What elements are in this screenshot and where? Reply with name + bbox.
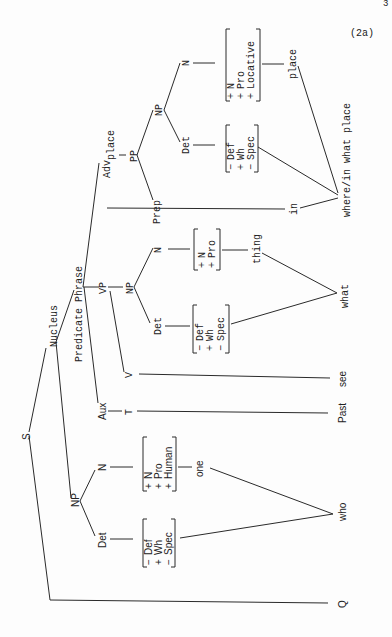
svg-text:Pro: Pro: [207, 240, 218, 258]
branch-v-see: [139, 374, 330, 378]
branch-npsubj-det: [80, 501, 95, 536]
branch-pred-aux: [84, 287, 98, 403]
branch-in-where: [300, 198, 338, 208]
svg-text:Human: Human: [163, 447, 174, 479]
node-nucleus: Nucleus: [49, 305, 60, 347]
node-n-pp: N: [181, 60, 192, 66]
page-mark: 3: [383, 0, 388, 9]
branch-thing-what: [262, 253, 337, 293]
surface-past: Past: [337, 403, 348, 423]
branch-npvp-n: [134, 248, 153, 287]
node-det-vp: Det: [153, 317, 164, 335]
surface-see: see: [337, 370, 348, 387]
lexical-one: one: [194, 460, 205, 477]
branch-pp-np: [137, 110, 153, 155]
svg-text:+: +: [163, 483, 174, 489]
features-one-det: − Def + Wh − Spec: [143, 532, 174, 565]
svg-text:Locative: Locative: [246, 41, 257, 89]
example-number: (2a): [350, 28, 374, 39]
branch-npvp-det: [134, 287, 150, 323]
node-prep: Prep: [152, 200, 163, 224]
branch-nucleus-np: [56, 342, 71, 498]
node-v: V: [124, 372, 135, 378]
svg-text:Spec: Spec: [246, 136, 257, 160]
surface-where: where/in what place: [342, 103, 353, 217]
surface-who: who: [337, 502, 348, 522]
syntax-tree-diagram: (2a) 3: [0, 0, 392, 637]
branch-spec-what: [231, 293, 337, 324]
lexical-in: in: [289, 203, 300, 215]
node-aux: Aux: [97, 403, 108, 420]
branch-one-who: [210, 468, 333, 514]
node-vp: VP: [98, 282, 109, 294]
svg-text:+: +: [207, 262, 218, 268]
branch-prep-in: [107, 208, 285, 209]
syntax-tree-page: (2a) 3: [0, 0, 392, 637]
svg-text:Wh: Wh: [205, 329, 216, 341]
branch-s-nucleus: [29, 348, 46, 432]
features-thing-det: − Def + Wh − Spec: [195, 317, 227, 351]
node-predicate-phrase: Predicate Phrase: [74, 266, 85, 362]
svg-text:−: −: [246, 164, 257, 170]
svg-text:−: −: [216, 345, 227, 351]
lexical-place: place: [288, 49, 299, 79]
svg-text:+: +: [205, 345, 216, 351]
lexical-thing: thing: [252, 234, 263, 264]
node-det-pp: Det: [181, 136, 192, 154]
branch-place-where: [298, 66, 338, 193]
features-place-n: + N + Pro + Locative: [226, 41, 257, 99]
branch-s-q: [29, 436, 328, 603]
node-np-pp: NP: [154, 104, 165, 116]
node-n-vp: N: [153, 247, 164, 253]
features-place-det: − Def + Wh − Spec: [226, 136, 257, 170]
branch-nppp-n: [164, 63, 180, 110]
node-pp: PP: [129, 150, 140, 162]
branch-pred-adv: [83, 163, 99, 287]
node-np-vp: NP: [125, 282, 136, 294]
surface-what: what: [340, 284, 351, 308]
surface-q: Q: [337, 600, 348, 608]
branch-spec-who: [180, 514, 333, 538]
branch-t-past: [137, 411, 328, 413]
branch-nppp-det: [164, 110, 180, 142]
node-t: T: [124, 409, 135, 415]
branch-npsubj-n: [80, 470, 95, 501]
node-adv-place: place: [106, 130, 117, 160]
features-one-n: + N + Pro + Human: [143, 447, 174, 489]
node-s: S: [21, 433, 32, 440]
node-n-subj: N: [97, 464, 108, 471]
branch-vp-v: [110, 291, 124, 372]
svg-text:−: −: [163, 559, 174, 565]
svg-text:+: +: [246, 93, 257, 99]
svg-text:Spec: Spec: [163, 532, 174, 555]
node-np-subj: NP: [70, 493, 81, 507]
svg-text:Spec: Spec: [216, 317, 227, 341]
node-adv: Adv: [102, 160, 113, 178]
features-thing-n: + N + Pro: [197, 240, 218, 268]
node-det-subj: Det: [97, 532, 108, 548]
